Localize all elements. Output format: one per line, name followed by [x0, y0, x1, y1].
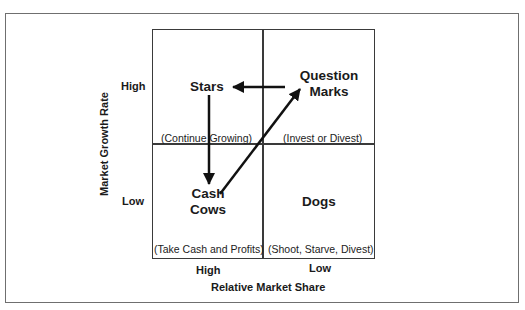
arrows-layer: [0, 0, 525, 310]
arrow-cash-cows-to-question-marks: [220, 89, 300, 194]
